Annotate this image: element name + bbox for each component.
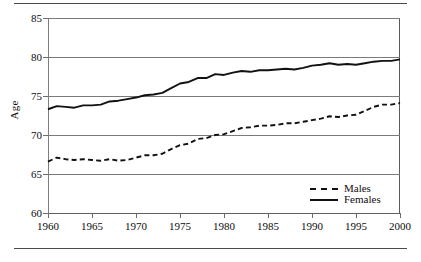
y-tick-label-60: 60 — [31, 208, 42, 219]
x-tick-label-1960: 1960 — [37, 220, 59, 232]
x-tick-mark-1960 — [48, 213, 49, 218]
x-tick-mark-1990 — [312, 213, 313, 218]
x-tick-mark-1985 — [268, 213, 269, 218]
top-divider-rule — [14, 3, 407, 4]
x-tick-label-1965: 1965 — [81, 220, 103, 232]
x-tick-label-1990: 1990 — [301, 220, 323, 232]
x-tick-mark-1970 — [136, 213, 137, 218]
legend-swatch-males-icon — [310, 188, 338, 190]
series-line-females — [48, 59, 400, 109]
y-tick-label-65: 65 — [31, 169, 42, 180]
x-tick-mark-1965 — [92, 213, 93, 218]
x-tick-label-1970: 1970 — [125, 220, 147, 232]
y-tick-label-75: 75 — [31, 91, 42, 102]
y-tick-label-70: 70 — [31, 130, 42, 141]
x-tick-label-1995: 1995 — [345, 220, 367, 232]
x-axis-tick-labels: 196019651970197519801985199019952000 — [48, 220, 400, 234]
legend: Males Females — [310, 183, 396, 207]
legend-label-females: Females — [344, 193, 381, 205]
x-axis-ticks — [48, 213, 400, 219]
y-tick-label-85: 85 — [31, 13, 42, 24]
series-line-males — [48, 103, 400, 162]
x-tick-mark-2000 — [400, 213, 401, 218]
x-tick-label-1975: 1975 — [169, 220, 191, 232]
x-tick-label-2000: 2000 — [389, 220, 411, 232]
x-tick-label-1985: 1985 — [257, 220, 279, 232]
x-tick-mark-1980 — [224, 213, 225, 218]
y-axis-title: Age — [8, 88, 20, 132]
legend-item-females: Females — [310, 194, 396, 205]
legend-swatch-females-icon — [310, 199, 338, 201]
chart-figure: 606570758085 Age 19601965197019751980198… — [0, 0, 421, 262]
x-tick-mark-1995 — [356, 213, 357, 218]
x-tick-mark-1975 — [180, 213, 181, 218]
x-tick-label-1980: 1980 — [213, 220, 235, 232]
y-tick-label-80: 80 — [31, 52, 42, 63]
bottom-divider-rule — [14, 248, 407, 249]
